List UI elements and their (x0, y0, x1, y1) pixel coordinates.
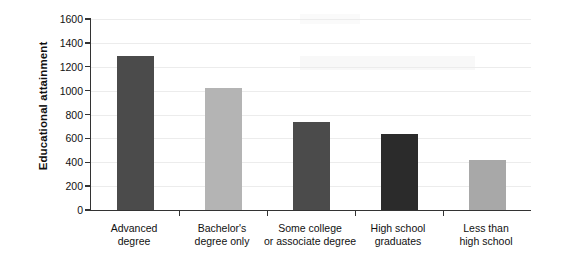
y-axis-tick (85, 185, 91, 186)
x-axis-category-label: Less than high school (436, 222, 536, 247)
gridline (91, 43, 531, 44)
bar-chart: Educational attainment 16001400120010008… (0, 0, 564, 262)
y-axis-tick-label: 0 (77, 204, 83, 216)
plot-area: 16001400120010008006004002000 (90, 19, 531, 211)
bar[interactable] (469, 160, 506, 210)
gridline (91, 19, 531, 20)
y-axis-tick-label: 600 (65, 132, 83, 144)
y-axis-tick (85, 90, 91, 91)
bar[interactable] (293, 122, 330, 210)
x-axis-category-label: Some college or associate degree (260, 222, 360, 247)
y-axis-tick-label: 200 (65, 180, 83, 192)
y-axis-tick-label: 1000 (60, 85, 83, 97)
y-axis-tick (85, 18, 91, 19)
gridline (91, 67, 531, 68)
x-axis-tick (179, 210, 180, 216)
gridline (91, 91, 531, 92)
y-axis-tick-label: 1600 (60, 13, 83, 25)
gridline (91, 115, 531, 116)
y-axis-tick (85, 162, 91, 163)
y-axis-tick-label: 400 (65, 156, 83, 168)
bar[interactable] (205, 88, 242, 210)
y-axis-tick (85, 209, 91, 210)
x-axis-tick (267, 210, 268, 216)
y-axis-title: Educational attainment (37, 1, 49, 211)
y-axis-tick (85, 138, 91, 139)
x-axis-tick (443, 210, 444, 216)
y-axis-tick (85, 114, 91, 115)
x-axis-tick (355, 210, 356, 216)
x-axis-category-label: Bachelor's degree only (172, 222, 272, 247)
y-axis-tick (85, 42, 91, 43)
y-axis-tick (85, 66, 91, 67)
bar[interactable] (381, 134, 418, 210)
y-axis-tick-label: 800 (65, 109, 83, 121)
y-axis-tick-label: 1400 (60, 37, 83, 49)
y-axis-tick-label: 1200 (60, 61, 83, 73)
x-axis-category-label: High school graduates (348, 222, 448, 247)
x-axis-category-label: Advanced degree (84, 222, 184, 247)
bar[interactable] (117, 56, 154, 210)
